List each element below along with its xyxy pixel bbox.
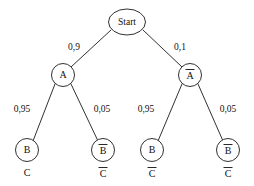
node-start-label: Start (118, 17, 136, 27)
node-b-2-label: B (149, 144, 156, 155)
edge-label-a-to-bbar: 0,05 (94, 104, 111, 114)
node-abar-label: A (186, 70, 194, 81)
edge-abar-to-b (158, 84, 182, 141)
edge-label-start-to-a: 0,9 (68, 42, 80, 52)
edge-label-start-to-abar: 0,1 (174, 42, 186, 52)
outcome-label-3: C (149, 168, 156, 179)
tree-svg-canvas: Start A A 0,9 0,1 0,95 0,05 0,95 0,05 B … (0, 0, 254, 186)
node-bbar-1-label: B (100, 145, 107, 156)
outcome-label-4: C (225, 168, 232, 179)
edge-label-abar-to-bbar: 0,05 (220, 104, 237, 114)
probability-tree-diagram: Start A A 0,9 0,1 0,95 0,05 0,95 0,05 B … (0, 0, 254, 186)
edge-label-abar-to-b: 0,95 (138, 104, 155, 114)
node-a-label: A (59, 69, 67, 80)
outcome-label-1: C (24, 167, 31, 178)
edge-a-to-b (33, 84, 55, 141)
edge-label-a-to-b: 0,95 (14, 104, 31, 114)
node-bbar-2-label: B (225, 145, 232, 156)
outcome-label-2: C (100, 168, 107, 179)
node-b-1-label: B (24, 144, 31, 155)
